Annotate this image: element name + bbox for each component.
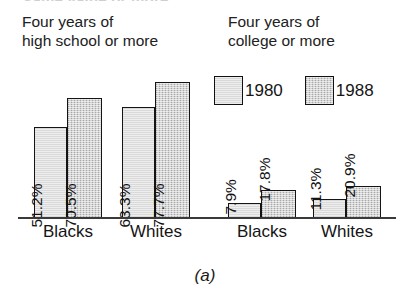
category-label-whites-highschool: Whites [112, 222, 200, 242]
bar-plot-area: 51.2% 70.5% 63.3% 77.7% 7.9% 17.8% 11.3%… [0, 0, 410, 304]
figure-panel-a: same value or more Four years of high sc… [0, 0, 410, 304]
bar-label-77-7: 77.7% [151, 184, 167, 228]
bar-label-17-8: 17.8% [257, 158, 273, 202]
bar-label-70-5: 70.5% [63, 184, 79, 228]
bar-label-11-3: 11.3% [308, 168, 324, 211]
bar-label-7-9: 7.9% [223, 179, 239, 214]
figure-caption: (a) [0, 266, 410, 286]
bar-label-51-2: 51.2% [29, 184, 45, 228]
bar-label-63-3: 63.3% [117, 184, 133, 228]
axis-baseline [18, 217, 396, 219]
category-label-blacks-college: Blacks [218, 222, 306, 242]
bar-label-20-9: 20.9% [342, 154, 358, 198]
category-label-blacks-highschool: Blacks [24, 222, 112, 242]
category-label-whites-college: Whites [303, 222, 391, 242]
